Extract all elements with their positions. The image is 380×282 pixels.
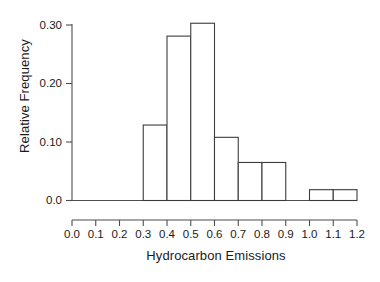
- x-axis-tick-label: 0.7: [230, 228, 246, 240]
- x-axis-tick-label: 0.8: [254, 228, 270, 240]
- y-axis-tick-label: 0.10: [40, 136, 62, 148]
- x-axis-tick-label: 1.1: [325, 228, 341, 240]
- histogram-bar: [215, 137, 239, 200]
- histogram-bar: [310, 190, 334, 201]
- x-axis-tick-label: 0.5: [183, 228, 199, 240]
- y-axis-tick-label: 0.20: [40, 77, 62, 89]
- histogram-bar: [333, 190, 357, 201]
- x-axis-tick-label: 0.0: [64, 228, 80, 240]
- x-axis-tick-label: 1.0: [302, 228, 318, 240]
- x-axis-tick-label: 0.2: [112, 228, 128, 240]
- x-axis-tick-label: 0.4: [159, 228, 176, 240]
- y-axis-tick-label: 0.30: [40, 19, 62, 31]
- x-axis-title: Hydrocarbon Emissions: [72, 248, 360, 263]
- histogram-bar: [143, 125, 167, 200]
- x-axis-tick-label: 0.6: [207, 228, 223, 240]
- histogram-bar: [167, 36, 191, 200]
- histogram-bar: [191, 23, 215, 200]
- plot-area: 0.00.100.200.300.00.10.20.30.40.50.60.70…: [0, 0, 380, 282]
- histogram-chart: Relative Frequency 0.00.100.200.300.00.1…: [0, 0, 380, 282]
- histogram-bar: [262, 162, 286, 200]
- x-axis-tick-label: 0.1: [88, 228, 104, 240]
- x-axis-tick-label: 0.9: [278, 228, 294, 240]
- histogram-bar: [238, 162, 262, 200]
- y-axis-tick-label: 0.0: [46, 194, 62, 206]
- x-axis-tick-label: 1.2: [349, 228, 365, 240]
- x-axis-tick-label: 0.3: [135, 228, 151, 240]
